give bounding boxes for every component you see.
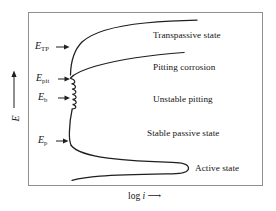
marker-label-eb: Eb <box>38 92 48 102</box>
marker-label-ep: Ep <box>38 135 48 145</box>
region-label-transpassive: Transpassive state <box>153 31 221 40</box>
plot-frame <box>29 13 263 186</box>
y-axis-arrow <box>11 71 16 109</box>
x-axis-label: log i ⟶ <box>128 192 161 202</box>
polarization-curve-figure: E ETP Epit Eb Ep Transpassive state Pitt… <box>0 0 276 211</box>
region-label-active-state: Active state <box>195 164 239 173</box>
y-axis-label: E <box>10 112 21 126</box>
region-label-pitting-corrosion: Pitting corrosion <box>153 63 215 72</box>
marker-label-epit: Epit <box>36 73 49 83</box>
region-label-stable-passive: Stable passive state <box>147 129 219 138</box>
marker-subscript-etp: TP <box>41 45 49 52</box>
marker-label-etp: ETP <box>35 41 49 51</box>
region-label-unstable-pitting: Unstable pitting <box>153 95 213 104</box>
x-axis-prefix: log <box>128 191 140 201</box>
x-axis-symbol: i <box>143 191 146 201</box>
marker-subscript-ep: p <box>44 139 47 146</box>
plot-canvas <box>0 0 276 211</box>
marker-subscript-eb: b <box>44 96 47 103</box>
marker-subscript-epit: pit <box>42 77 49 84</box>
x-axis-arrow: ⟶ <box>148 191 162 201</box>
